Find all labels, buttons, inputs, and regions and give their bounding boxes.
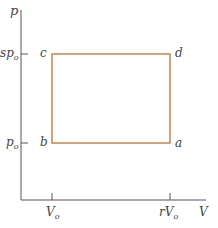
- y-axis-label: p: [10, 4, 18, 17]
- corner-label-b: b: [40, 136, 48, 148]
- x-tick-label-v0-sub: o: [55, 212, 60, 221]
- x-tick-label-rv0-main: rV: [159, 205, 173, 219]
- corner-label-a: a: [175, 137, 182, 149]
- x-tick-label-rv0-sub: o: [173, 212, 178, 221]
- corner-label-c: c: [40, 47, 47, 59]
- x-tick-label-rv0: rVo: [159, 206, 178, 221]
- y-tick-label-sp0-sub: o: [14, 53, 19, 62]
- cycle-rectangle: [52, 54, 170, 143]
- y-tick-label-sp0-main: sp: [0, 46, 14, 60]
- x-axis-label: V: [199, 206, 208, 218]
- corner-label-d: d: [175, 47, 183, 59]
- y-tick-label-sp0: spo: [0, 47, 19, 62]
- y-tick-label-p0-sub: o: [14, 142, 19, 151]
- x-tick-label-v0: Vo: [46, 206, 60, 221]
- pv-diagram-canvas: [0, 0, 218, 228]
- y-tick-label-p0-main: p: [6, 135, 14, 149]
- x-tick-label-v0-main: V: [46, 205, 55, 219]
- y-tick-label-p0: po: [6, 136, 19, 151]
